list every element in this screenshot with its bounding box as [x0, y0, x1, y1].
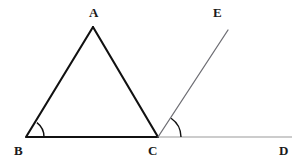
ray-ce	[158, 30, 228, 137]
vertex-label-e: E	[213, 6, 222, 19]
angle-arc-b	[37, 123, 44, 137]
vertex-label-a: A	[89, 6, 98, 19]
segment-ab	[26, 27, 93, 137]
vertex-label-d: D	[279, 144, 288, 157]
angle-arc-c	[171, 118, 181, 137]
vertex-label-c: C	[148, 144, 157, 157]
geometry-figure: A B C D E	[0, 0, 304, 166]
segment-ac	[93, 27, 158, 137]
geometry-canvas	[0, 0, 304, 166]
vertex-label-b: B	[14, 144, 23, 157]
